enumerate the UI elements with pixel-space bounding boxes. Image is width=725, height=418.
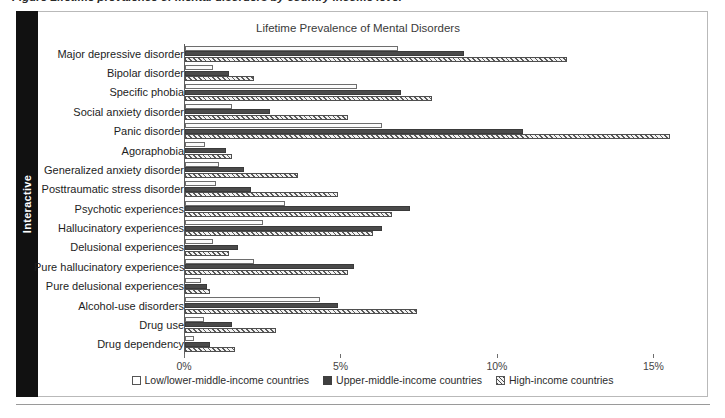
bar-high[interactable] — [185, 173, 298, 178]
x-axis-tick-mark — [653, 354, 654, 358]
bar-upper[interactable] — [185, 90, 401, 95]
figure-caption: Figure Lifetime prevalence of mental dis… — [12, 0, 402, 3]
category-label: Hallucinatory experiences — [34, 222, 184, 234]
legend-swatch-high-icon — [496, 376, 505, 385]
figure-caption-strip: Figure Lifetime prevalence of mental dis… — [0, 0, 725, 9]
bar-upper[interactable] — [185, 51, 464, 56]
category-labels-column: Major depressive disorderBipolar disorde… — [38, 44, 184, 354]
bar-upper[interactable] — [185, 284, 207, 289]
bar-group — [185, 278, 692, 294]
bar-group — [185, 162, 692, 178]
legend-swatch-upper-icon — [323, 376, 332, 385]
legend-item[interactable]: Upper-middle-income countries — [323, 374, 482, 386]
bar-high[interactable] — [185, 134, 670, 139]
bar-group — [185, 123, 692, 139]
bar-upper[interactable] — [185, 245, 238, 250]
category-label: Drug dependency — [34, 338, 184, 350]
bar-high[interactable] — [185, 96, 432, 101]
category-label: Psychotic experiences — [34, 203, 184, 215]
category-label: Delusional experiences — [34, 241, 184, 253]
legend-item[interactable]: High-income countries — [496, 374, 613, 386]
x-axis-tick-mark — [184, 354, 185, 358]
x-axis-tick-mark — [497, 354, 498, 358]
bar-upper[interactable] — [185, 206, 410, 211]
chart-region: Lifetime Prevalence of Mental Disorders … — [38, 12, 707, 396]
x-axis-tick-label: 5% — [333, 360, 348, 372]
category-label: Pure delusional experiences — [34, 280, 184, 292]
bar-group — [185, 239, 692, 255]
plot-area: 0%5%10%15% — [184, 44, 691, 354]
legend-label: Low/lower-middle-income countries — [145, 374, 310, 386]
bar-group — [185, 317, 692, 333]
bar-low[interactable] — [185, 201, 285, 206]
bar-high[interactable] — [185, 115, 348, 120]
bar-high[interactable] — [185, 212, 392, 217]
bar-high[interactable] — [185, 289, 210, 294]
bar-low[interactable] — [185, 317, 204, 322]
bar-high[interactable] — [185, 270, 348, 275]
x-axis-tick-label: 15% — [643, 360, 664, 372]
bar-low[interactable] — [185, 297, 320, 302]
bar-group — [185, 104, 692, 120]
bar-high[interactable] — [185, 57, 567, 62]
bar-high[interactable] — [185, 347, 235, 352]
bar-low[interactable] — [185, 46, 398, 51]
bar-low[interactable] — [185, 65, 213, 70]
bar-group — [185, 181, 692, 197]
bar-group — [185, 336, 692, 352]
legend-item[interactable]: Low/lower-middle-income countries — [132, 374, 310, 386]
bar-high[interactable] — [185, 231, 373, 236]
bar-low[interactable] — [185, 220, 263, 225]
category-label: Bipolar disorder — [34, 67, 184, 79]
bar-low[interactable] — [185, 259, 254, 264]
figure-bottom-rule — [16, 404, 710, 405]
bar-group — [185, 65, 692, 81]
bar-high[interactable] — [185, 76, 254, 81]
plot-wrap: Major depressive disorderBipolar disorde… — [38, 44, 707, 354]
bar-group — [185, 142, 692, 158]
bar-upper[interactable] — [185, 129, 523, 134]
bar-upper[interactable] — [185, 226, 382, 231]
category-label: Pure hallucinatory experiences — [34, 261, 184, 273]
bar-upper[interactable] — [185, 167, 244, 172]
bar-low[interactable] — [185, 84, 357, 89]
bar-upper[interactable] — [185, 264, 354, 269]
category-label: Posttraumatic stress disorder — [34, 183, 184, 195]
bar-upper[interactable] — [185, 71, 229, 76]
x-axis-tick-label: 0% — [176, 360, 191, 372]
interactive-tab-label: Interactive — [21, 175, 33, 233]
bar-high[interactable] — [185, 251, 229, 256]
legend-label: High-income countries — [509, 374, 613, 386]
legend-label: Upper-middle-income countries — [336, 374, 482, 386]
bar-low[interactable] — [185, 181, 216, 186]
bar-upper[interactable] — [185, 322, 232, 327]
bar-upper[interactable] — [185, 342, 210, 347]
category-label: Alcohol-use disorders — [34, 300, 184, 312]
bar-low[interactable] — [185, 278, 201, 283]
bar-low[interactable] — [185, 123, 382, 128]
bar-upper[interactable] — [185, 148, 226, 153]
bar-low[interactable] — [185, 104, 232, 109]
x-axis-tick-mark — [340, 354, 341, 358]
category-label: Drug use — [34, 319, 184, 331]
bar-low[interactable] — [185, 142, 205, 147]
bar-high[interactable] — [185, 328, 276, 333]
bar-low[interactable] — [185, 336, 194, 341]
bar-group — [185, 84, 692, 100]
category-label: Panic disorder — [34, 125, 184, 137]
bar-upper[interactable] — [185, 109, 270, 114]
category-label: Specific phobia — [34, 86, 184, 98]
bar-group — [185, 46, 692, 62]
bar-high[interactable] — [185, 192, 338, 197]
category-label: Agoraphobia — [34, 145, 184, 157]
bar-upper[interactable] — [185, 187, 251, 192]
chart-title: Lifetime Prevalence of Mental Disorders — [38, 22, 678, 34]
bar-low[interactable] — [185, 239, 213, 244]
bar-group — [185, 259, 692, 275]
bar-high[interactable] — [185, 309, 417, 314]
bar-high[interactable] — [185, 154, 232, 159]
bar-low[interactable] — [185, 162, 219, 167]
chart-legend: Low/lower-middle-income countriesUpper-m… — [38, 374, 707, 386]
bar-upper[interactable] — [185, 303, 338, 308]
bar-group — [185, 201, 692, 217]
